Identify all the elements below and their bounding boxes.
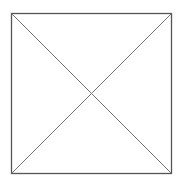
square-diagonals-diagram (0, 0, 186, 184)
